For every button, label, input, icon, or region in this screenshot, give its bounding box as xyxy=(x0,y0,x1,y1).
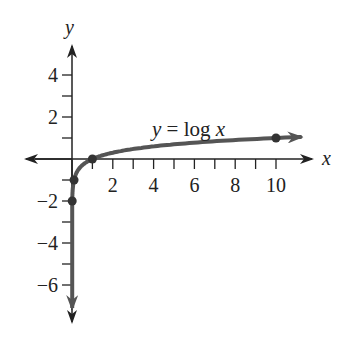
x-tick-label: 2 xyxy=(108,174,118,196)
data-point xyxy=(272,134,281,143)
data-point xyxy=(68,197,77,206)
y-tick-labels: 42−2−4−6 xyxy=(37,64,58,296)
log-graph: 246810 42−2−4−6 x y y = log x xyxy=(0,0,361,337)
y-tick-label: −2 xyxy=(37,190,58,212)
x-ticks xyxy=(92,159,276,169)
y-tick-label: 4 xyxy=(48,64,58,86)
data-point xyxy=(88,155,97,164)
y-tick-label: −6 xyxy=(37,274,58,296)
y-tick-label: −4 xyxy=(37,232,58,254)
y-axis-label: y xyxy=(63,16,74,39)
data-point xyxy=(70,176,79,185)
x-tick-label: 10 xyxy=(266,174,286,196)
x-axis-label: x xyxy=(321,147,331,169)
x-tick-label: 6 xyxy=(189,174,199,196)
x-tick-label: 8 xyxy=(230,174,240,196)
x-tick-labels: 246810 xyxy=(108,174,286,196)
x-tick-label: 4 xyxy=(149,174,159,196)
equation-annotation: y = log x xyxy=(150,117,226,141)
y-tick-label: 2 xyxy=(48,106,58,128)
